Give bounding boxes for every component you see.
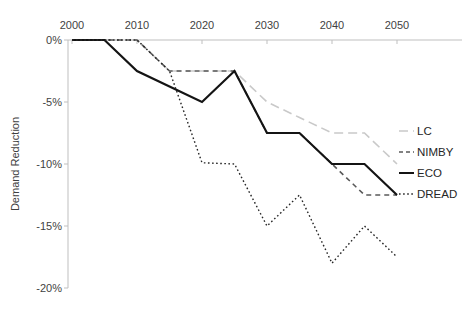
lc-line-swatch [398, 128, 415, 134]
legend-item-nimby: NIMBY [398, 145, 457, 159]
y-tick-label--15%: -15% [16, 220, 62, 233]
legend: LC NIMBY ECO DREAD [398, 124, 457, 201]
legend-label-nimby: NIMBY [417, 146, 453, 158]
x-tick-label-2010: 2010 [117, 19, 157, 32]
y-tick-label--10%: -10% [16, 158, 62, 171]
legend-label-lc: LC [417, 125, 432, 137]
x-tick-label-2000: 2000 [52, 19, 92, 32]
y-tick-label--5%: -5% [16, 96, 62, 109]
y-tick-label--20%: -20% [16, 282, 62, 295]
x-tick-label-2020: 2020 [182, 19, 222, 32]
series-eco [72, 40, 397, 195]
eco-line-swatch [398, 170, 415, 176]
x-tick-label-2050: 2050 [377, 19, 417, 32]
series-lc [72, 40, 397, 164]
x-tick-label-2030: 2030 [247, 19, 287, 32]
legend-item-eco: ECO [398, 166, 457, 180]
legend-label-eco: ECO [417, 167, 442, 179]
x-tick-label-2040: 2040 [312, 19, 352, 32]
legend-item-lc: LC [398, 124, 457, 138]
y-tick-label-0%: 0% [16, 34, 62, 47]
legend-item-dread: DREAD [398, 187, 457, 201]
legend-label-dread: DREAD [417, 188, 457, 200]
series-dread [72, 40, 397, 263]
dread-line-swatch [398, 191, 415, 197]
demand-reduction-chart: Demand Reduction LC NIMBY ECO DREAD 2000… [0, 0, 475, 312]
series-nimby [72, 40, 397, 195]
nimby-line-swatch [398, 149, 415, 155]
